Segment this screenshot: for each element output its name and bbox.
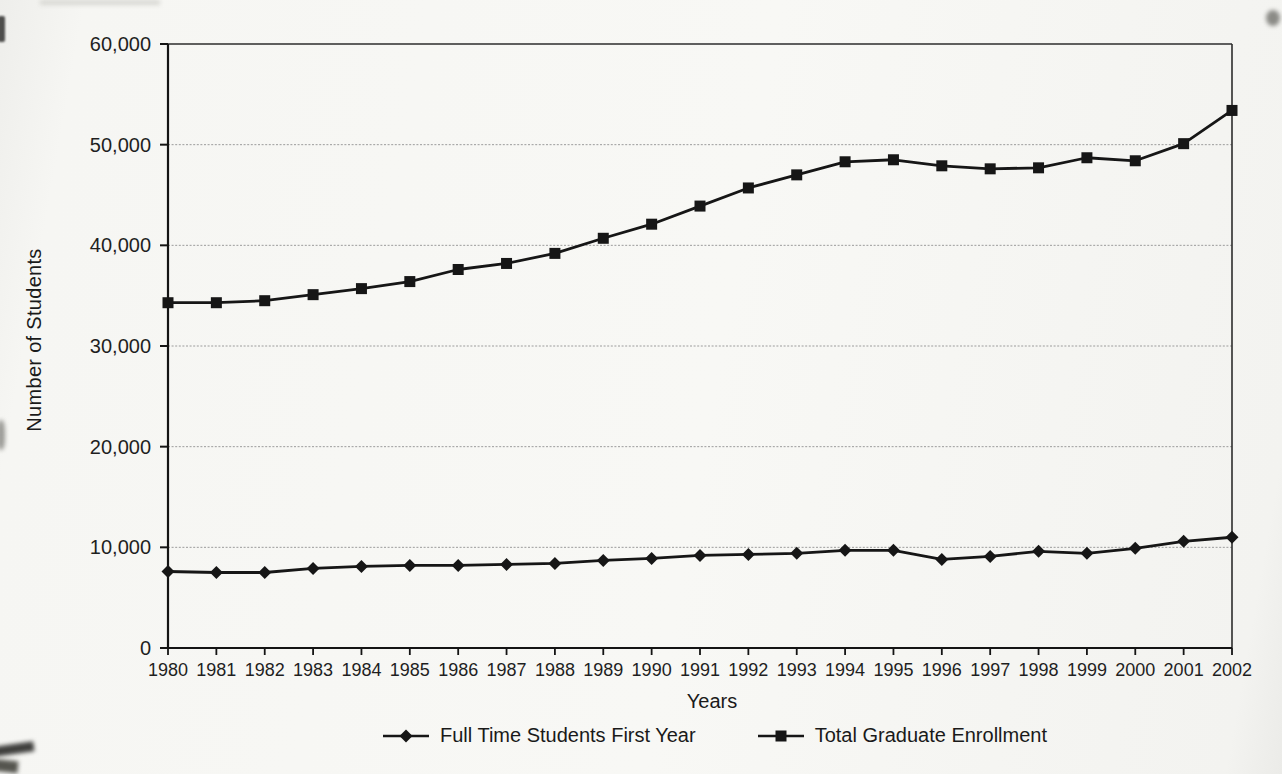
scanned-enrollment-chart-page: Number of Students 010,00020,00030,00040… [0,0,1282,774]
x-tick-label: 1991 [680,660,720,680]
diamond-marker [1226,531,1239,544]
x-tick-label: 1986 [438,660,478,680]
diamond-marker [887,544,900,557]
diamond-marker [742,548,755,561]
diamond-marker [1032,545,1045,558]
x-tick-label: 1987 [487,660,527,680]
y-tick-label: 10,000 [90,536,151,558]
square-marker [1227,105,1238,116]
x-tick-label: 2000 [1115,660,1155,680]
x-tick-label: 1998 [1019,660,1059,680]
square-marker [501,258,512,269]
square-marker [308,289,319,300]
x-axis-title: Years [687,690,737,713]
diamond-marker [645,552,658,565]
square-marker [1081,152,1092,163]
square-marker [1178,138,1189,149]
square-marker [453,264,464,275]
legend-label-total-graduate-enrollment: Total Graduate Enrollment [815,724,1047,747]
diamond-marker [839,544,852,557]
y-tick-label: 30,000 [90,335,151,357]
x-tick-label: 1990 [632,660,672,680]
x-tick-label: 1989 [583,660,623,680]
diamond-marker [452,559,465,572]
diamond-marker [355,560,368,573]
x-tick-label: 2001 [1164,660,1204,680]
square-marker [646,219,657,230]
square-marker [888,154,899,165]
diamond-marker [1080,547,1093,560]
chart-legend: Full Time Students First Year Total Grad… [0,724,1282,747]
legend-item-total-graduate-enrollment: Total Graduate Enrollment [758,724,1047,747]
diamond-marker [162,565,175,578]
square-marker-icon [758,728,804,744]
diamond-marker [1129,542,1142,555]
diamond-marker [403,559,416,572]
y-tick-label: 60,000 [90,33,151,55]
diamond-marker [307,562,320,575]
x-tick-label: 2002 [1212,660,1252,680]
square-marker [163,297,174,308]
x-tick-label: 1995 [873,660,913,680]
legend-label-full-time-students: Full Time Students First Year [440,724,696,747]
square-marker [1033,162,1044,173]
diamond-marker [597,554,610,567]
x-tick-label: 1980 [148,660,188,680]
x-tick-label: 1983 [293,660,333,680]
square-marker [211,297,222,308]
diamond-marker-icon [383,728,429,744]
diamond-marker [258,566,271,579]
x-tick-label: 1984 [341,660,381,680]
diamond-marker [935,553,948,566]
x-tick-label: 1982 [245,660,285,680]
square-marker [356,283,367,294]
x-tick-label: 1997 [970,660,1010,680]
diamond-marker [500,558,513,571]
diamond-marker [694,549,707,562]
square-marker [404,276,415,287]
diamond-marker [210,566,223,579]
square-marker [791,169,802,180]
y-tick-label: 0 [140,637,151,659]
line-chart-plot: 010,00020,00030,00040,00050,00060,000198… [0,0,1282,774]
y-tick-label: 20,000 [90,436,151,458]
x-tick-label: 1999 [1067,660,1107,680]
legend-item-full-time-students: Full Time Students First Year [383,724,696,747]
square-marker [259,295,270,306]
diamond-marker [548,557,561,570]
square-marker [985,163,996,174]
x-tick-label: 1996 [922,660,962,680]
y-tick-label: 40,000 [90,234,151,256]
x-tick-label: 1993 [777,660,817,680]
x-tick-label: 1994 [825,660,865,680]
square-marker [1130,155,1141,166]
x-tick-label: 1988 [535,660,575,680]
square-marker [549,248,560,259]
diamond-marker [984,550,997,563]
diamond-marker [790,547,803,560]
x-tick-label: 1981 [196,660,236,680]
square-marker [695,201,706,212]
y-tick-label: 50,000 [90,134,151,156]
x-tick-label: 1992 [728,660,768,680]
square-marker [840,156,851,167]
square-marker [743,182,754,193]
x-tick-label: 1985 [390,660,430,680]
square-marker [936,160,947,171]
square-marker [598,233,609,244]
diamond-marker [1177,535,1190,548]
